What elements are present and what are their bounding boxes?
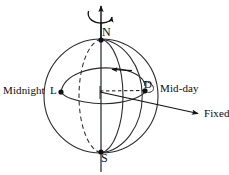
label-north-pole: N [102, 26, 111, 38]
secondary-meridian-arc [101, 39, 142, 153]
meridian-back-arc [79, 39, 101, 153]
label-local-point: L [50, 85, 57, 96]
local-point-dot [58, 89, 63, 94]
label-fixed: Fixed [204, 108, 229, 119]
rotation-indicator-icon [88, 11, 112, 23]
label-midday-point: D [144, 79, 152, 90]
label-midday: Mid-day [160, 83, 199, 94]
label-south-pole: S [101, 152, 108, 164]
latitude-circle [61, 68, 145, 104]
label-midnight: Midnight [3, 85, 45, 96]
diagram-canvas: N S L D Midnight Mid-day Fixed [0, 0, 229, 175]
